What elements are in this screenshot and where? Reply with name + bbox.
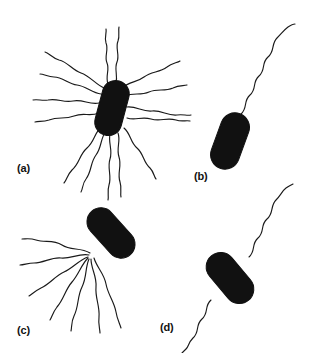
panel-label-d: (d): [160, 322, 173, 333]
panel-label-a: (a): [17, 163, 30, 174]
panel-label-c: (c): [17, 325, 30, 336]
panel-label-b: (b): [194, 171, 207, 182]
bacteria-flagella-figure: [0, 0, 311, 353]
figure-container: (a) (b) (c) (d): [0, 0, 311, 353]
